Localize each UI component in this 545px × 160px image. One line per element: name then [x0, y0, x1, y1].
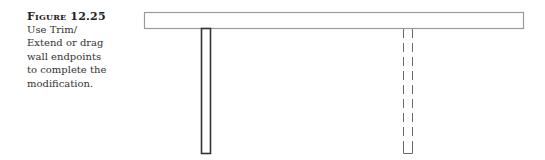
wall-plan-drawing: [0, 0, 545, 160]
vertical-wall-solid[interactable]: [202, 29, 211, 154]
vertical-wall-dashed: [404, 29, 413, 154]
horizontal-wall[interactable]: [145, 13, 524, 29]
